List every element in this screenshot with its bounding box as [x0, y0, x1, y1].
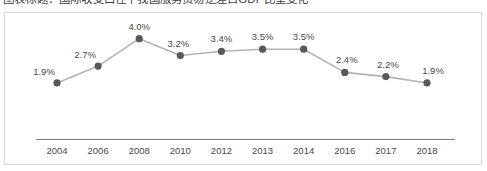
- x-axis-tick-label: 2006: [88, 145, 109, 156]
- x-axis-tick-label: 2004: [46, 145, 67, 156]
- x-axis-tick-label: 2018: [416, 145, 437, 156]
- data-point-label: 1.9%: [422, 66, 444, 76]
- x-axis-tick-label: 2012: [211, 145, 232, 156]
- data-point-marker: [341, 69, 348, 76]
- data-point-label: 3.5%: [293, 32, 315, 42]
- data-point-marker: [382, 73, 389, 80]
- x-axis-tick-label: 2016: [334, 145, 355, 156]
- data-point-marker: [177, 52, 184, 59]
- data-point-label: 3.5%: [252, 32, 274, 42]
- series-line-path: [57, 39, 427, 83]
- x-axis-tick-label: 2014: [293, 145, 314, 156]
- data-point-label: 3.4%: [211, 34, 233, 44]
- x-axis-tick-label: 2013: [252, 145, 273, 156]
- data-point-marker: [95, 62, 102, 69]
- data-point-label: 2.2%: [377, 60, 399, 70]
- data-point-label: 1.9%: [33, 67, 55, 77]
- data-point-marker: [53, 79, 60, 86]
- data-point-marker: [300, 46, 307, 53]
- data-point-label: 2.7%: [74, 50, 96, 60]
- data-point-label: 2.4%: [336, 55, 358, 65]
- chart-screenshot: 图表标题：国际收支口径下我国服务贸易逆差占GDP比重变化 1.9%2.7%4.0…: [0, 0, 487, 171]
- series-line-group: [57, 39, 427, 83]
- x-axis-tick-label: 2008: [129, 145, 150, 156]
- data-point-marker: [136, 35, 143, 42]
- series-markers-group: [53, 35, 430, 86]
- line-chart-plot: [0, 0, 487, 171]
- data-point-marker: [218, 48, 225, 55]
- data-point-marker: [423, 79, 430, 86]
- data-point-marker: [259, 46, 266, 53]
- data-point-label: 4.0%: [128, 22, 150, 32]
- x-axis-tick-label: 2017: [375, 145, 396, 156]
- data-point-label: 3.2%: [168, 39, 190, 49]
- x-axis-tick-label: 2010: [170, 145, 191, 156]
